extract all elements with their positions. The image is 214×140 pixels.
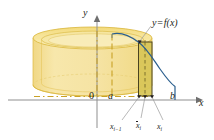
origin-label: 0 [89,91,94,101]
x-i-subscript: i [161,126,163,132]
x-i-minus-1-subscript: i−1 [114,126,122,132]
x-i-label: xi [157,123,162,132]
cylinder-shell [33,27,152,96]
x-i-minus-1-label: xi−1 [110,123,121,132]
curve-label-arg: (x) [167,17,178,28]
representative-strip [139,42,153,96]
x-bar-i-base: x [136,122,140,130]
y-axis-label: y [83,8,87,18]
curve-equation-label: y = f(x) [152,18,178,28]
cylindrical-shell-figure: y x 0 a b y = f(x) xi−1 xi xi [0,0,214,140]
tick-arrow-xi [150,95,154,98]
y-axis-arrowhead [94,15,100,22]
lower-limit-a-label: a [108,91,113,101]
upper-limit-b-label: b [170,91,175,101]
x-bar-i-label: xi [136,122,141,131]
x-axis-label: x [199,98,203,108]
shell-top-inner-ellipse-2 [49,34,137,47]
figure-canvas [0,0,214,140]
